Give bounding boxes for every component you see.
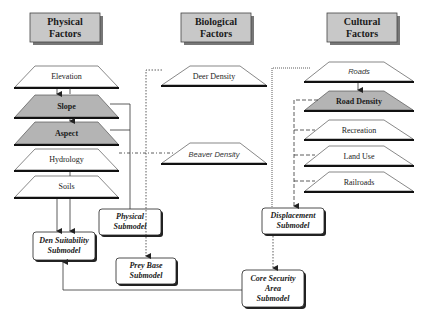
submodel-prey-base-line2: Submodel xyxy=(116,271,176,281)
submodel-den-suitability-line2: Submodel xyxy=(33,246,95,256)
submodel-core-security-line1: Core Security xyxy=(242,274,304,284)
submodel-prey-base: Prey Base Submodel xyxy=(116,261,176,281)
header-cultural-line2: Factors xyxy=(327,28,397,40)
label-land-use: Land Use xyxy=(305,151,413,162)
label-railroads: Railroads xyxy=(305,177,413,188)
header-cultural-line1: Cultural xyxy=(327,16,397,28)
label-slope: Slope xyxy=(15,101,118,112)
submodel-displacement-line1: Displacement xyxy=(262,211,324,221)
submodel-den-suitability: Den Suitability Submodel xyxy=(33,236,95,256)
submodel-displacement: Displacement Submodel xyxy=(262,211,324,231)
header-biological-line2: Factors xyxy=(181,28,251,40)
submodel-den-suitability-line1: Den Suitability xyxy=(33,236,95,246)
submodel-physical: Physical Submodel xyxy=(99,212,161,232)
header-physical-line1: Physical xyxy=(30,16,100,28)
header-biological-line1: Biological xyxy=(181,16,251,28)
header-biological: Biological Factors xyxy=(181,16,251,40)
submodel-physical-line2: Submodel xyxy=(99,222,161,232)
header-cultural: Cultural Factors xyxy=(327,16,397,40)
label-recreation: Recreation xyxy=(305,125,413,136)
label-aspect: Aspect xyxy=(15,128,118,139)
label-road-density: Road Density xyxy=(305,96,413,107)
submodel-prey-base-line1: Prey Base xyxy=(116,261,176,271)
label-elevation: Elevation xyxy=(15,71,118,82)
header-physical: Physical Factors xyxy=(30,16,100,40)
label-soils: Soils xyxy=(15,181,118,192)
header-physical-line2: Factors xyxy=(30,28,100,40)
label-deer-density: Deer Density xyxy=(162,71,266,82)
submodel-physical-line1: Physical xyxy=(99,212,161,222)
label-hydrology: Hydrology xyxy=(15,154,118,165)
label-beaver-density: Beaver Density xyxy=(162,149,266,160)
submodel-core-security-line2: Area xyxy=(242,284,304,294)
submodel-core-security-line3: Submodel xyxy=(242,294,304,304)
label-roads: Roads xyxy=(305,66,413,77)
submodel-displacement-line2: Submodel xyxy=(262,221,324,231)
submodel-core-security: Core Security Area Submodel xyxy=(242,274,304,304)
